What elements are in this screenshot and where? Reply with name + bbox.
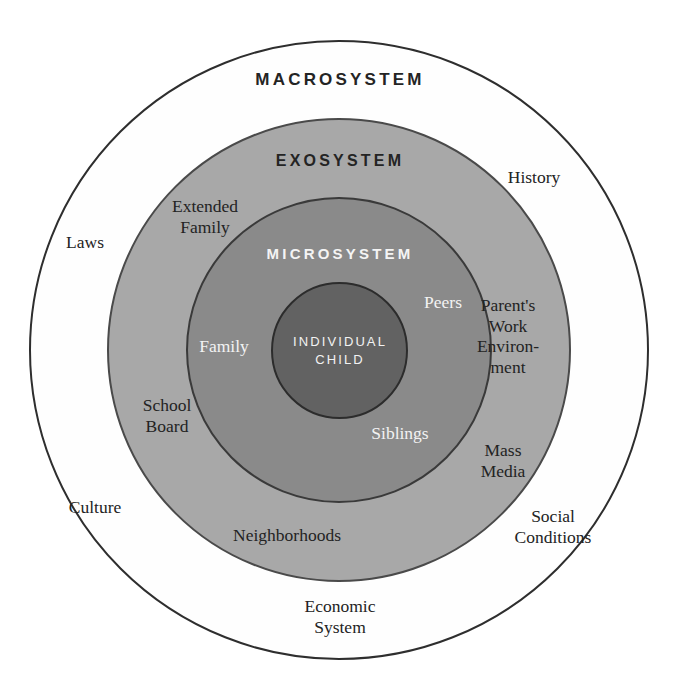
ecological-systems-diagram: MACROSYSTEM EXOSYSTEM MICROSYSTEM INDIVI… — [0, 0, 675, 696]
individual-child-circle — [271, 282, 408, 419]
